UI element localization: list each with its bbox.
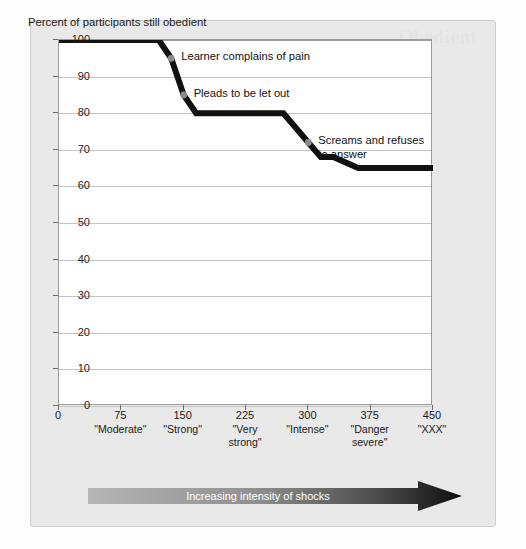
intensity-arrow: Increasing intensity of shocks (88, 481, 462, 511)
y-tickmark-10 (53, 368, 58, 369)
data-marker-0 (168, 55, 175, 62)
annotation-1: Pleads to be let out (194, 87, 290, 101)
x-sublabel-450: "XXX" (389, 423, 475, 436)
y-tickmark-100 (53, 39, 58, 40)
y-tickmark-90 (53, 76, 58, 77)
x-tickmark-300 (307, 405, 308, 410)
y-tickmark-50 (53, 222, 58, 223)
y-tickmark-30 (53, 295, 58, 296)
annotation-0: Learner complains of pain (181, 50, 310, 64)
x-tickmark-450 (432, 405, 433, 410)
y-tickmark-20 (53, 332, 58, 333)
y-tickmark-60 (53, 185, 58, 186)
y-tickmark-80 (53, 112, 58, 113)
x-tickmark-75 (120, 405, 121, 410)
y-tickmark-40 (53, 259, 58, 260)
arrow-label: Increasing intensity of shocks (88, 481, 428, 511)
chart-figure: Obedient Percent of participants still o… (0, 0, 526, 549)
x-tickmark-150 (183, 405, 184, 410)
annotation-2: Screams and refuses to answer (318, 134, 424, 161)
y-axis-title: Percent of participants still obedient (28, 16, 206, 28)
data-marker-2 (305, 139, 312, 146)
data-marker-1 (180, 92, 187, 99)
x-tickmark-375 (370, 405, 371, 410)
x-tickmark-225 (245, 405, 246, 410)
x-tickmark-0 (58, 405, 59, 410)
y-tickmark-70 (53, 149, 58, 150)
x-tick-450: 450 (392, 409, 472, 421)
